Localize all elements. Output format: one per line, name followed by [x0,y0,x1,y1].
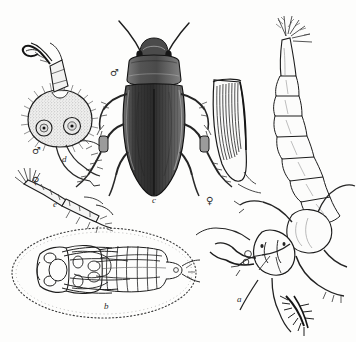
figure-label-a: a [237,295,242,304]
figure-label-c: c [152,196,156,205]
figure-e-female-leg [15,168,113,233]
figure-label-d: d [62,155,67,164]
engraving-plate: a b c d e ♂ ♂ ♀ ♀ [0,0,356,342]
figure-c-adult-beetle [76,21,232,196]
female-symbol-elytron: ♀ [206,196,213,206]
plate-artwork [0,0,356,342]
figure-a-larva [196,16,355,336]
figure-label-b: b [104,302,109,311]
male-symbol-sucker: ♂ [32,146,41,156]
figure-d-male-sucker [21,43,103,186]
figure-label-e: e [53,200,57,209]
male-symbol-beetle: ♂ [110,68,119,78]
female-symbol-leg: ♀ [32,176,39,186]
